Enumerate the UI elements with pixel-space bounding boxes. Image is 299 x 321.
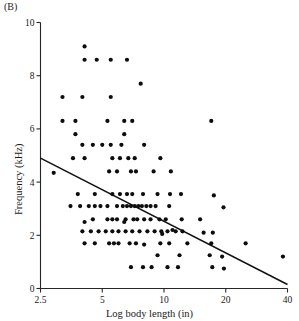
data-point — [140, 204, 144, 208]
data-point — [80, 95, 84, 99]
data-point — [142, 143, 146, 147]
data-point — [93, 241, 97, 245]
data-point — [91, 217, 95, 221]
data-point — [109, 143, 113, 147]
data-point — [154, 204, 158, 208]
data-point — [115, 169, 119, 173]
data-point — [109, 95, 113, 99]
x-tick-label-10: 10 — [159, 295, 169, 305]
data-point — [95, 58, 99, 62]
data-point — [122, 220, 126, 224]
data-point — [144, 204, 148, 208]
data-point — [211, 231, 215, 235]
data-point — [105, 217, 109, 221]
data-point — [210, 265, 214, 269]
data-point — [198, 217, 202, 221]
data-point — [82, 220, 86, 224]
data-point — [130, 229, 134, 233]
data-point — [93, 204, 97, 208]
data-point — [116, 241, 120, 245]
data-point — [148, 204, 152, 208]
data-point — [125, 192, 129, 196]
data-point — [124, 229, 128, 233]
data-point — [118, 156, 122, 160]
data-point — [244, 241, 248, 245]
data-point — [177, 253, 181, 257]
data-point — [135, 217, 139, 221]
data-point — [71, 156, 75, 160]
data-point — [180, 229, 184, 233]
data-point — [110, 192, 114, 196]
data-point — [60, 95, 64, 99]
data-point — [76, 192, 80, 196]
data-point — [105, 204, 109, 208]
data-point — [125, 204, 129, 208]
data-point — [155, 192, 159, 196]
data-point — [82, 44, 86, 48]
data-point — [80, 143, 84, 147]
data-point — [148, 217, 152, 221]
data-point — [133, 204, 137, 208]
data-point — [165, 265, 169, 269]
data-point — [164, 217, 168, 221]
data-point — [185, 241, 189, 245]
data-point — [220, 254, 224, 258]
data-point — [122, 132, 126, 136]
data-point — [141, 192, 145, 196]
data-point — [129, 204, 133, 208]
data-point — [180, 217, 184, 221]
data-point — [160, 232, 164, 236]
data-point — [91, 143, 95, 147]
x-tick-label-2.5: 2.5 — [35, 295, 47, 305]
data-point — [167, 241, 171, 245]
data-point — [115, 217, 119, 221]
data-point — [110, 156, 114, 160]
data-point — [122, 119, 126, 123]
data-point — [115, 204, 119, 208]
data-point — [133, 156, 137, 160]
data-point — [142, 217, 146, 221]
data-point — [52, 171, 56, 175]
y-tick-label-10: 10 — [25, 18, 35, 28]
data-point — [170, 228, 174, 232]
data-point — [129, 265, 133, 269]
data-point — [125, 58, 129, 62]
data-point — [93, 192, 97, 196]
data-point — [119, 143, 123, 147]
data-point — [158, 156, 162, 160]
data-point — [168, 192, 172, 196]
scatter-plot: 02468102.55102040 — [0, 0, 299, 321]
data-point — [80, 229, 84, 233]
data-point — [142, 243, 146, 247]
data-point — [145, 229, 149, 233]
data-point — [208, 253, 212, 257]
data-point — [134, 169, 138, 173]
data-point — [116, 229, 120, 233]
data-point — [169, 169, 173, 173]
data-point — [97, 229, 101, 233]
regression-line — [41, 158, 288, 284]
data-point — [105, 119, 109, 123]
y-axis-label: Frequency (kHz) — [13, 144, 24, 215]
data-point — [152, 169, 156, 173]
data-point — [153, 229, 157, 233]
data-point — [109, 58, 113, 62]
data-point — [82, 241, 86, 245]
data-point — [130, 119, 134, 123]
x-tick-label-40: 40 — [283, 295, 293, 305]
data-point — [121, 204, 125, 208]
x-tick-label-20: 20 — [221, 295, 231, 305]
y-tick-label-0: 0 — [30, 284, 35, 294]
data-point — [126, 156, 130, 160]
y-tick-label-8: 8 — [30, 71, 35, 81]
data-point — [202, 231, 206, 235]
data-point — [82, 58, 86, 62]
data-point — [78, 204, 82, 208]
data-point — [107, 241, 111, 245]
data-point — [221, 205, 225, 209]
data-point — [82, 156, 86, 160]
data-point — [87, 204, 91, 208]
data-point — [118, 192, 122, 196]
x-tick-label-5: 5 — [100, 295, 105, 305]
data-point — [212, 193, 216, 197]
